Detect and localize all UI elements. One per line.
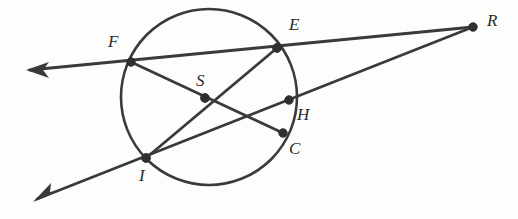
point-dot-h <box>285 96 293 104</box>
point-label-i: I <box>139 167 145 184</box>
point-label-f: F <box>108 33 118 50</box>
point-dot-c <box>279 129 287 137</box>
point-label-h: H <box>297 106 309 123</box>
secant-line-fer <box>30 27 473 70</box>
chord-line-ei <box>146 48 277 158</box>
point-label-e: E <box>289 16 299 33</box>
point-dot-f <box>127 58 135 66</box>
point-dot-e <box>273 44 282 53</box>
point-dot-i <box>142 154 151 163</box>
geometry-diagram: F E R S H C I <box>0 0 518 219</box>
geometry-canvas <box>0 0 518 219</box>
point-label-c: C <box>289 140 300 157</box>
point-label-s: S <box>196 72 205 89</box>
arrow-lower-left-icon <box>33 183 59 202</box>
arrow-upper-left-icon <box>26 62 49 78</box>
point-label-r: R <box>487 12 497 29</box>
point-dot-s <box>201 94 210 103</box>
point-dot-r <box>469 23 477 31</box>
